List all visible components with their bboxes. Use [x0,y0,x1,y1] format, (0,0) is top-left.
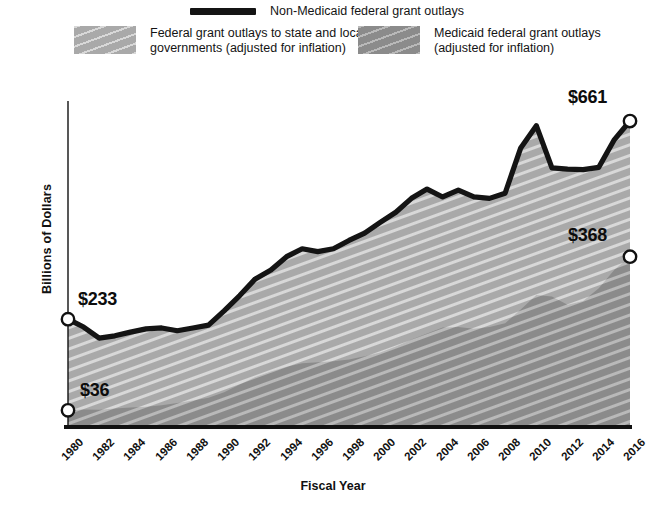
x-axis-title-text: Fiscal Year [300,479,365,493]
annotation-total-1980: $233 [78,289,117,310]
y-axis-title: Billions of Dollars [40,164,54,314]
annotation-medicaid-1980: $36 [80,380,109,401]
marker-total-2016 [624,115,636,127]
marker-total-1980 [62,313,74,325]
annotation-medicaid-2016: $368 [568,225,607,246]
chart-root: Non-Medicaid federal grant outlays Feder… [0,0,654,512]
annotation-total-2016: $661 [568,87,607,108]
marker-medicaid-1980 [62,404,74,416]
marker-medicaid-2016 [624,250,636,262]
x-axis-title: Fiscal Year [0,479,654,493]
plot-area: 0100200300400500600700 Billions of Dolla… [0,0,654,512]
